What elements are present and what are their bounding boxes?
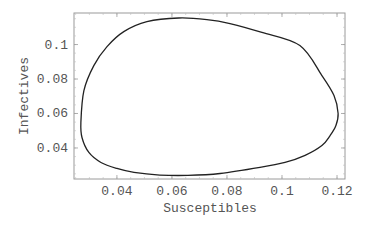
x-tick-label: 0.04 [101,184,132,199]
x-tick-labels: 0.040.060.080.10.12 [101,184,352,199]
x-tick-label: 0.1 [270,184,294,199]
y-axis-label: Infectives [17,57,32,135]
y-tick-label: 0.04 [37,141,68,156]
phase-plot: 0.040.060.080.10.12 0.040.060.080.1 Susc… [0,0,369,228]
y-tick-label: 0.08 [37,72,68,87]
y-tick-labels: 0.040.060.080.1 [37,38,68,156]
x-tick-label: 0.06 [156,184,187,199]
x-tick-label: 0.08 [211,184,242,199]
y-tick-label: 0.1 [45,38,69,53]
trajectory-curve [81,18,338,176]
x-axis-label: Susceptibles [163,201,257,216]
x-tick-label: 0.12 [321,184,352,199]
y-tick-label: 0.06 [37,106,68,121]
